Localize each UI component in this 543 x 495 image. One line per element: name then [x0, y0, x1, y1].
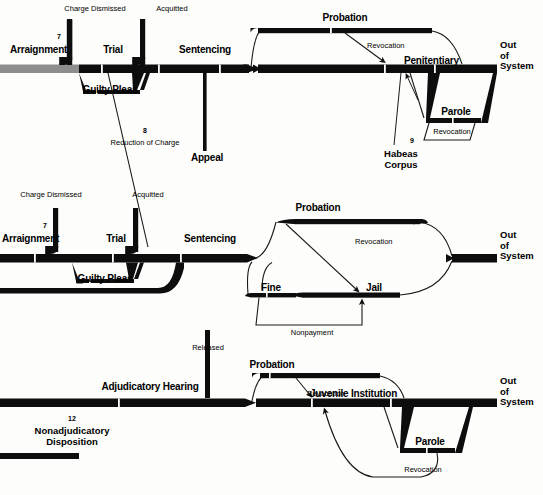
- bar-probation-juvenile: [260, 373, 380, 378]
- label-acquitted-felony: Acquitted: [156, 4, 187, 13]
- stage-parole-juvenile: Parole: [415, 436, 444, 447]
- stage-guilty-pleas-felony: Guilty Pleas: [83, 84, 138, 95]
- label-out-of-system-felony: OutofSystem: [500, 40, 534, 72]
- label-habeas-corpus: HabeasCorpus: [384, 149, 418, 170]
- label-charge-dismissed-felony: Charge Dismissed: [64, 4, 125, 13]
- marker-8-reduction: 8: [143, 127, 147, 134]
- stage-arraignment-misd: Arraignment: [2, 233, 59, 244]
- label-out-of-system-juvenile: OutofSystem: [500, 376, 534, 408]
- flowchart-canvas: [0, 0, 543, 495]
- line-probation-rise-misd: [256, 222, 276, 258]
- label-charge-dismissed-misd: Charge Dismissed: [20, 190, 81, 199]
- label-out-of-system-misd: OutofSystem: [500, 230, 534, 262]
- stage-sentencing-felony: Sentencing: [179, 44, 231, 55]
- main-bar-felony: [79, 65, 258, 74]
- loop-nonpayment: [256, 298, 362, 326]
- loop-probation-felony: [251, 30, 262, 69]
- marker-7-felony: 7: [57, 33, 61, 40]
- marker-7-misd: 7: [43, 222, 47, 229]
- loop-parole-felony-left: [410, 73, 424, 118]
- line-reduction-of-charge: [108, 73, 148, 247]
- label-acquitted-misd: Acquitted: [132, 190, 163, 199]
- line-probation-rise-juv: [252, 375, 264, 401]
- flowchart-diagram: Charge Dismissed Acquitted 7 Arraignment…: [0, 0, 543, 495]
- stage-jail-misd: Jail: [366, 282, 382, 293]
- label-revocation-parole-felony: Revocation: [433, 127, 471, 136]
- bar-probation-felony: [258, 28, 432, 33]
- exit-acquitted-misd: [133, 208, 138, 252]
- bar-probation-misd: [296, 219, 420, 224]
- stage-fine-misd: Fine: [261, 282, 281, 293]
- exit-appeal-felony: [203, 73, 207, 151]
- stage-juvenile-institution: Juvenile Institution: [310, 388, 397, 399]
- main-bar-misd: [40, 254, 258, 263]
- marker-12-nonadjudicatory: 12: [68, 415, 76, 422]
- stage-probation-misd: Probation: [296, 202, 341, 213]
- stage-adjudicatory-hearing: Adjudicatory Hearing: [101, 381, 198, 392]
- stage-trial-felony: Trial: [103, 44, 123, 55]
- label-revocation-parole-juv: Revocation: [404, 465, 442, 474]
- line-probation-rejoin-misd: [420, 222, 452, 256]
- label-nonadjudicatory-disposition: NonadjudicatoryDisposition: [35, 426, 110, 447]
- main-bar-penitentiary: [258, 65, 497, 74]
- exit-released-juvenile: [205, 330, 210, 398]
- label-revocation-probation-felony: Revocation: [367, 41, 405, 50]
- main-bar-juvenile-institution: [256, 399, 497, 408]
- line-revocation-probation-misd: [286, 224, 357, 290]
- exit-charge-dismissed-misd: [53, 208, 58, 252]
- stage-trial-misd: Trial: [106, 233, 126, 244]
- marker-9-habeas: 9: [410, 137, 414, 144]
- stage-arraignment-felony: Arraignment: [10, 44, 67, 55]
- stage-guilty-pleas-misd: Guilty Pleas: [78, 273, 133, 284]
- stage-probation-felony: Probation: [323, 12, 368, 23]
- stage-penitentiary-felony: Penitentiary: [404, 55, 459, 66]
- entry-segment-felony: [0, 65, 79, 74]
- bar-jail-misd: [303, 293, 400, 298]
- line-parole-drop-juv: [384, 407, 398, 448]
- line-fine-drop: [248, 262, 253, 294]
- main-bar-juvenile: [0, 399, 245, 408]
- main-bar-out-misd: [452, 254, 497, 263]
- stage-sentencing-misd: Sentencing: [184, 233, 236, 244]
- bar-fine-misd: [251, 293, 296, 297]
- stage-probation-juvenile: Probation: [250, 359, 295, 370]
- line-jail-rejoin: [400, 261, 452, 295]
- label-nonpayment: Nonpayment: [291, 328, 334, 337]
- line-habeas-corpus: [394, 73, 401, 145]
- stage-parole-felony: Parole: [441, 106, 470, 117]
- label-reduction-of-charge: Reduction of Charge: [111, 138, 180, 147]
- label-revocation-misd: Revocation: [355, 237, 393, 246]
- exit-label-appeal: Appeal: [191, 152, 223, 163]
- exit-label-released: Released: [192, 343, 224, 352]
- bar-nonadjudicatory-disposition: [0, 453, 79, 459]
